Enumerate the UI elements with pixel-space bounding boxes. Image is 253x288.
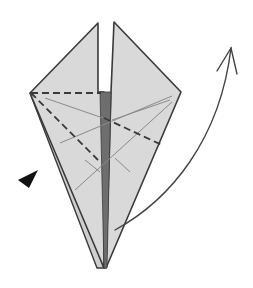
push-arrow-icon: [18, 170, 38, 188]
left-flap: [30, 23, 104, 268]
right-flap: [106, 22, 181, 268]
origami-diagram: [0, 0, 253, 288]
